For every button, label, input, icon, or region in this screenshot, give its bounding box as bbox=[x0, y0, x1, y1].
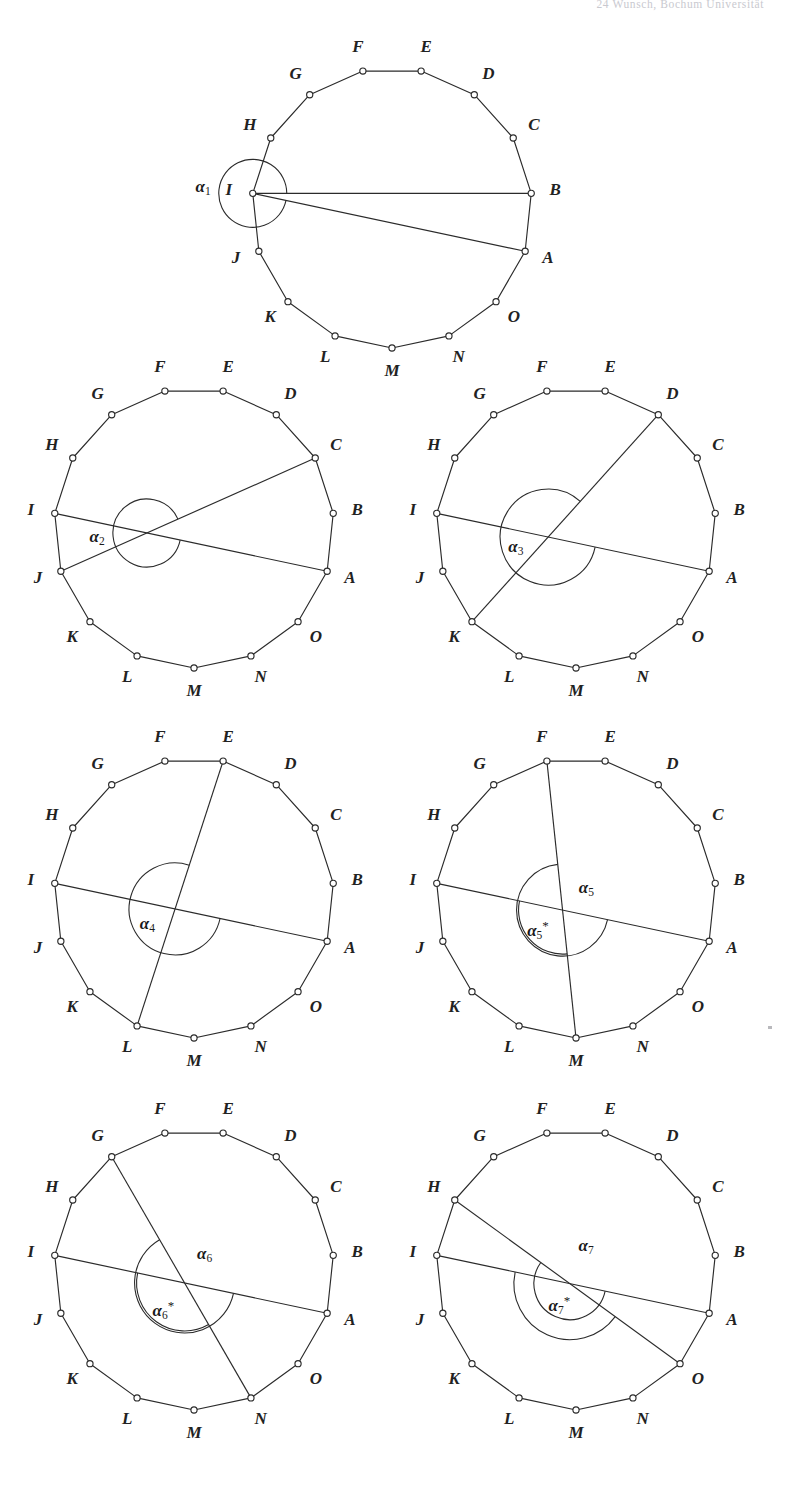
vertex-label-K: K bbox=[263, 307, 277, 326]
vertex-marker-O bbox=[295, 1361, 301, 1367]
vertex-marker-L bbox=[134, 1395, 140, 1401]
vertex-marker-M bbox=[191, 1035, 197, 1041]
vertex-marker-G bbox=[491, 412, 497, 418]
figure-panel-4: ABCDEFGHIJKLMNOα4 bbox=[14, 718, 394, 1098]
vertex-label-H: H bbox=[242, 115, 257, 134]
panel-5-canvas: ABCDEFGHIJKLMNOα5*α5 bbox=[396, 718, 776, 1098]
vertex-marker-B bbox=[712, 880, 718, 886]
vertex-marker-L bbox=[134, 1023, 140, 1029]
vertex-label-C: C bbox=[712, 805, 724, 824]
vertex-label-C: C bbox=[330, 805, 342, 824]
alpha-5-label: α5 bbox=[579, 878, 594, 898]
fixed-chord-IA bbox=[437, 883, 709, 941]
vertex-marker-G bbox=[109, 412, 115, 418]
vertex-label-H: H bbox=[426, 1177, 441, 1196]
panel-2-canvas: ABCDEFGHIJKLMNOα2 bbox=[14, 348, 394, 728]
figure-panel-6: ABCDEFGHIJKLMNOα6*α6 bbox=[14, 1090, 394, 1470]
vertex-marker-J bbox=[256, 248, 262, 254]
vertex-label-C: C bbox=[528, 115, 540, 134]
vertex-marker-N bbox=[630, 1023, 636, 1029]
running-head: 24 Wunsch, Bochum Universität bbox=[0, 0, 788, 16]
vertex-label-I: I bbox=[27, 500, 36, 519]
panel-6-canvas: ABCDEFGHIJKLMNOα6*α6 bbox=[14, 1090, 394, 1470]
vertex-marker-H bbox=[70, 455, 76, 461]
figure-panel-7: ABCDEFGHIJKLMNOα7*α7 bbox=[396, 1090, 776, 1470]
vertex-marker-G bbox=[109, 782, 115, 788]
vertex-marker-M bbox=[191, 665, 197, 671]
alpha-6-star-group: α6* bbox=[135, 1240, 234, 1333]
vertex-marker-B bbox=[712, 510, 718, 516]
vertex-label-M: M bbox=[185, 1423, 202, 1442]
vertex-label-G: G bbox=[91, 1126, 104, 1145]
vertex-marker-O bbox=[677, 989, 683, 995]
panel-3-canvas: ABCDEFGHIJKLMNOα3 bbox=[396, 348, 776, 728]
vertex-label-L: L bbox=[121, 667, 132, 686]
vertex-marker-B bbox=[712, 1252, 718, 1258]
panel-4-canvas: ABCDEFGHIJKLMNOα4 bbox=[14, 718, 394, 1098]
fixed-chord-IA bbox=[437, 1255, 709, 1313]
vertex-marker-H bbox=[70, 1197, 76, 1203]
vertex-marker-N bbox=[248, 1023, 254, 1029]
vertex-label-A: A bbox=[725, 1310, 737, 1329]
vertex-marker-F bbox=[544, 758, 550, 764]
vertex-label-A: A bbox=[343, 938, 355, 957]
vertex-label-B: B bbox=[732, 1242, 744, 1261]
vertex-label-N: N bbox=[636, 667, 650, 686]
vertex-marker-B bbox=[330, 880, 336, 886]
second-chord-MF bbox=[547, 761, 576, 1038]
vertex-marker-E bbox=[602, 1130, 608, 1136]
vertex-marker-F bbox=[544, 388, 550, 394]
vertex-marker-L bbox=[134, 653, 140, 659]
vertex-marker-J bbox=[440, 1310, 446, 1316]
vertex-label-K: K bbox=[447, 627, 461, 646]
vertex-label-H: H bbox=[426, 435, 441, 454]
vertex-marker-J bbox=[440, 568, 446, 574]
vertex-marker-O bbox=[493, 299, 499, 305]
vertex-label-L: L bbox=[121, 1037, 132, 1056]
vertex-marker-I bbox=[434, 510, 440, 516]
figure-panel-3: ABCDEFGHIJKLMNOα3 bbox=[396, 348, 776, 728]
vertex-marker-D bbox=[655, 782, 661, 788]
vertex-marker-D bbox=[273, 1154, 279, 1160]
vertex-label-E: E bbox=[221, 356, 233, 375]
vertex-marker-A bbox=[324, 568, 330, 574]
vertex-label-E: E bbox=[603, 356, 615, 375]
vertex-marker-E bbox=[220, 1130, 226, 1136]
vertex-marker-M bbox=[573, 1035, 579, 1041]
vertex-marker-I bbox=[434, 1252, 440, 1258]
vertex-label-D: D bbox=[481, 64, 494, 83]
fixed-chord-IA bbox=[55, 1255, 327, 1313]
alpha-7-star-arc bbox=[534, 1263, 605, 1320]
vertex-label-C: C bbox=[712, 435, 724, 454]
vertex-marker-C bbox=[694, 825, 700, 831]
vertex-label-A: A bbox=[725, 568, 737, 587]
vertex-marker-N bbox=[248, 1395, 254, 1401]
fixed-chord-IA bbox=[253, 193, 525, 251]
vertex-marker-J bbox=[440, 938, 446, 944]
vertex-marker-I bbox=[52, 1252, 58, 1258]
polygon-outline bbox=[55, 1133, 333, 1410]
vertex-marker-K bbox=[469, 1361, 475, 1367]
vertex-label-F: F bbox=[153, 726, 166, 745]
vertex-marker-F bbox=[544, 1130, 550, 1136]
vertex-label-D: D bbox=[665, 754, 678, 773]
vertex-marker-H bbox=[268, 135, 274, 141]
vertex-label-N: N bbox=[254, 667, 268, 686]
vertex-label-E: E bbox=[603, 726, 615, 745]
scan-speck bbox=[768, 1026, 772, 1029]
vertex-label-L: L bbox=[121, 1409, 132, 1428]
vertex-marker-K bbox=[469, 619, 475, 625]
vertex-marker-D bbox=[655, 412, 661, 418]
vertex-marker-E bbox=[602, 388, 608, 394]
vertex-label-O: O bbox=[508, 307, 520, 326]
vertex-label-J: J bbox=[231, 248, 241, 267]
alpha-2-label: α2 bbox=[90, 527, 105, 547]
vertex-marker-C bbox=[312, 825, 318, 831]
vertex-marker-H bbox=[452, 455, 458, 461]
vertex-label-O: O bbox=[692, 997, 704, 1016]
alpha-2-group: α2 bbox=[90, 499, 181, 567]
polygon-outline bbox=[253, 71, 531, 348]
vertex-label-F: F bbox=[535, 356, 548, 375]
vertex-label-G: G bbox=[473, 754, 486, 773]
alpha-7-star-group: α7* bbox=[534, 1263, 605, 1320]
